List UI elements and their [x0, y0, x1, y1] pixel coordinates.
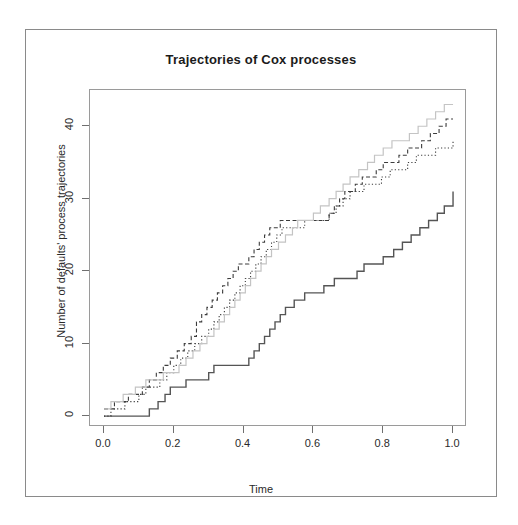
x-tick-label: 0.4	[226, 437, 260, 449]
x-tick-label: 0.0	[86, 437, 120, 449]
series-line-1	[104, 191, 453, 416]
x-tick-mark	[243, 426, 244, 433]
y-tick-label: 20	[63, 256, 75, 282]
x-tick-label: 1.0	[435, 437, 469, 449]
y-tick-label: 40	[63, 111, 75, 137]
x-tick-mark	[103, 426, 104, 433]
y-tick-mark	[82, 270, 89, 271]
y-tick-mark	[82, 415, 89, 416]
x-tick-mark	[382, 426, 383, 433]
x-tick-mark	[312, 426, 313, 433]
y-tick-mark	[82, 343, 89, 344]
figure-frame: Trajectories of Cox processes Number of …	[25, 29, 497, 497]
x-tick-label: 0.2	[156, 437, 190, 449]
y-tick-label: 0	[63, 401, 75, 427]
page-title: Trajectories of Cox processes	[26, 52, 496, 67]
y-tick-label: 10	[63, 329, 75, 355]
trajectories-plot	[90, 90, 467, 427]
y-tick-mark	[82, 125, 89, 126]
x-axis-label: Time	[26, 483, 496, 495]
x-tick-label: 0.8	[365, 437, 399, 449]
plot-area	[89, 89, 466, 426]
y-axis-label: Number of defaults' process trajectories	[55, 126, 67, 356]
x-tick-mark	[173, 426, 174, 433]
series-line-4	[104, 104, 453, 408]
y-tick-label: 30	[63, 184, 75, 210]
x-tick-label: 0.6	[295, 437, 329, 449]
y-tick-mark	[82, 198, 89, 199]
x-tick-mark	[452, 426, 453, 433]
series-line-2	[104, 119, 453, 409]
